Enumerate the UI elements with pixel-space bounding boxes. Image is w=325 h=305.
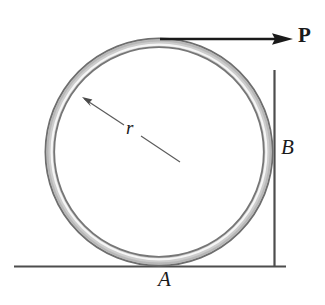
contact-point-b-label: B <box>281 137 294 158</box>
radius-leader-segment-upper <box>85 99 125 125</box>
radius-arrow-head <box>82 97 92 106</box>
ground-shadow-band <box>14 267 296 297</box>
force-arrow-head <box>272 33 293 45</box>
radius-label: r <box>126 118 133 137</box>
physics-figure: r A B P <box>0 0 325 305</box>
force-label-p: P <box>298 25 311 46</box>
figure-canvas <box>0 0 325 305</box>
wall-shadow-band <box>275 68 309 268</box>
contact-point-a-label: A <box>158 269 171 290</box>
ring-inner-edge <box>54 47 264 257</box>
radius-leader-segment-lower <box>141 136 180 162</box>
ring-body <box>45 38 272 265</box>
